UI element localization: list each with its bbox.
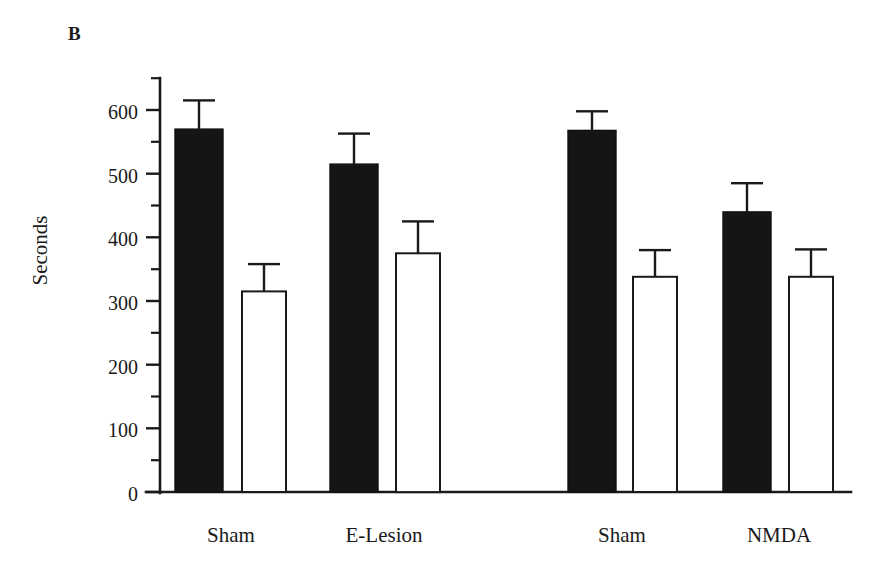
x-tick-label-nmda: NMDA	[747, 525, 811, 546]
x-tick-label-sham-2: Sham	[598, 525, 646, 546]
figure-panel-b: B Seconds 0 100 200 300 400 500 600	[0, 0, 887, 578]
x-tick-label-e-lesion: E-Lesion	[346, 525, 423, 546]
x-axis-tick-labels: Sham E-Lesion Sham NMDA	[0, 0, 887, 578]
x-tick-label-sham-1: Sham	[207, 525, 255, 546]
